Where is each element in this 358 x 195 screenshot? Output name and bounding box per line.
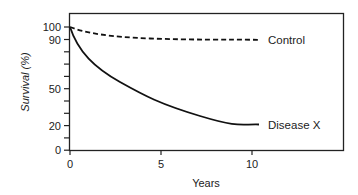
y-tick-label: 0: [55, 144, 61, 156]
x-tick-label: 0: [67, 158, 73, 170]
y-tick-label: 100: [43, 21, 61, 33]
x-tick-label: 5: [158, 158, 164, 170]
x-axis-ticks: [70, 151, 252, 156]
x-tick-label: 10: [246, 158, 258, 170]
survival-chart: 100 90 50 20 0 0 5 10 Years Survival (%)…: [0, 0, 358, 195]
control-label: Control: [268, 34, 305, 46]
y-axis-ticks: [64, 27, 70, 150]
control-series-line: [70, 27, 258, 40]
y-axis-title: Survival (%): [19, 52, 31, 112]
y-tick-label: 90: [49, 34, 61, 46]
x-axis-title: Years: [192, 177, 220, 189]
disease-series-line: [70, 27, 259, 125]
y-tick-label: 50: [49, 83, 61, 95]
disease-label: Disease X: [268, 119, 321, 131]
y-tick-label: 20: [49, 120, 61, 132]
